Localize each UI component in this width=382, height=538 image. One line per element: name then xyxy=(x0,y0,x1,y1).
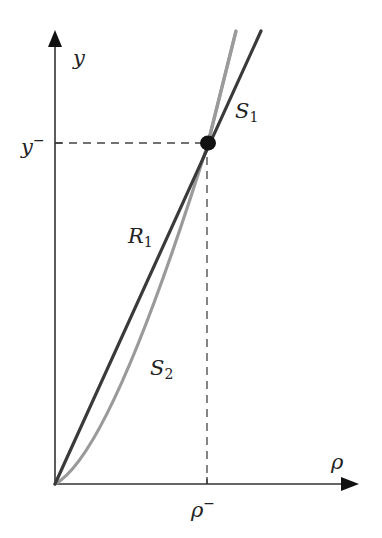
y-axis-label-text: y xyxy=(73,46,85,70)
R1-sub: 1 xyxy=(144,234,153,250)
rho-minus-tick-label: ρ− xyxy=(191,496,215,521)
R1-label: R1 xyxy=(128,226,153,249)
line-R1 xyxy=(55,31,261,484)
curve-S2-upper xyxy=(208,31,236,143)
rho-minus-base: ρ xyxy=(191,498,203,522)
R1-base: R xyxy=(128,224,144,248)
x-axis-label: ρ xyxy=(331,452,343,473)
y-minus-sup: − xyxy=(33,132,45,148)
S2-sub: 2 xyxy=(164,366,173,382)
S1-sub: 1 xyxy=(249,109,258,125)
rho-minus-sup: − xyxy=(203,495,215,511)
y-axis-label: y xyxy=(73,48,85,69)
y-axis-arrow-icon xyxy=(48,30,62,47)
S2-base: S xyxy=(150,356,164,380)
y-minus-base: y xyxy=(21,135,33,159)
S1-label: S1 xyxy=(235,101,258,124)
x-axis-arrow-icon xyxy=(341,477,359,491)
S2-label: S2 xyxy=(150,358,173,381)
x-axis-label-text: ρ xyxy=(331,450,343,474)
curve-S2 xyxy=(55,31,236,484)
diagram-canvas xyxy=(0,0,382,538)
intersection-point xyxy=(200,136,216,151)
y-minus-tick-label: y− xyxy=(21,133,45,158)
S1-base: S xyxy=(235,99,249,123)
